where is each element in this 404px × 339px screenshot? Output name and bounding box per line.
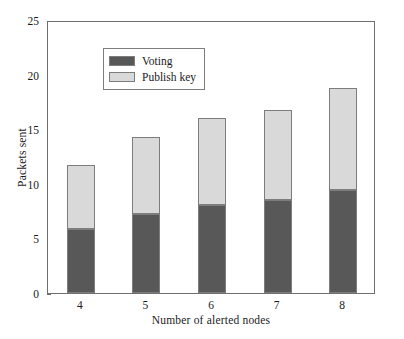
x-axis-tick-label: 6 bbox=[191, 298, 231, 312]
legend-swatch-publish-key bbox=[109, 72, 135, 82]
y-axis-tick-label: 0 bbox=[33, 286, 39, 302]
bar-segment-publish-key[interactable] bbox=[132, 137, 160, 215]
x-axis-tick-label: 8 bbox=[322, 298, 362, 312]
bar-segment-publish-key[interactable] bbox=[329, 88, 357, 191]
bar-segment-publish-key[interactable] bbox=[67, 165, 95, 228]
legend-label-voting: Voting bbox=[142, 53, 172, 69]
x-axis-tick-label: 5 bbox=[125, 298, 165, 312]
y-axis-tick-label: 5 bbox=[33, 231, 39, 247]
legend-swatch-voting bbox=[109, 56, 135, 66]
bar-group[interactable] bbox=[264, 20, 292, 293]
y-axis-tick: 5 bbox=[0, 239, 47, 240]
x-axis-tick: 4 bbox=[80, 294, 81, 295]
x-axis-tick-label: 7 bbox=[257, 298, 297, 312]
x-axis-tick: 7 bbox=[277, 294, 278, 295]
bar-segment-publish-key[interactable] bbox=[198, 118, 226, 204]
legend-item-voting: Voting bbox=[109, 53, 196, 69]
x-axis-tick: 8 bbox=[342, 294, 343, 295]
x-axis-tick: 6 bbox=[211, 294, 212, 295]
bar-segment-voting[interactable] bbox=[264, 200, 292, 293]
y-axis-tick: 25 bbox=[0, 21, 47, 22]
x-axis-tick: 5 bbox=[145, 294, 146, 295]
y-axis-tick-label: 15 bbox=[28, 122, 40, 138]
bar-segment-voting[interactable] bbox=[132, 214, 160, 293]
plot-area: Voting Publish key bbox=[47, 21, 375, 294]
y-axis-tick-label: 25 bbox=[28, 13, 40, 29]
y-axis-tick: 10 bbox=[0, 185, 47, 186]
bar-segment-voting[interactable] bbox=[67, 229, 95, 293]
stacked-bar-chart-figure: Packets sent 0510152025 45678 Voting Pub… bbox=[0, 0, 404, 339]
bar-segment-voting[interactable] bbox=[198, 205, 226, 293]
chart-legend: Voting Publish key bbox=[103, 48, 205, 90]
x-axis-title: Number of alerted nodes bbox=[47, 314, 375, 326]
y-axis-tick-mark bbox=[47, 294, 51, 295]
y-axis-tick: 20 bbox=[0, 76, 47, 77]
y-axis-tick-label: 20 bbox=[28, 68, 40, 84]
bar-segment-voting[interactable] bbox=[329, 190, 357, 293]
y-axis-tick: 15 bbox=[0, 130, 47, 131]
legend-label-publish-key: Publish key bbox=[142, 69, 196, 85]
y-axis-title: Packets sent bbox=[14, 21, 30, 294]
x-axis-tick-label: 4 bbox=[60, 298, 100, 312]
bar-group[interactable] bbox=[67, 20, 95, 293]
y-axis-tick: 0 bbox=[0, 294, 47, 295]
y-axis-tick-label: 10 bbox=[28, 177, 40, 193]
bar-segment-publish-key[interactable] bbox=[264, 110, 292, 201]
bar-group[interactable] bbox=[329, 20, 357, 293]
legend-item-publish-key: Publish key bbox=[109, 69, 196, 85]
